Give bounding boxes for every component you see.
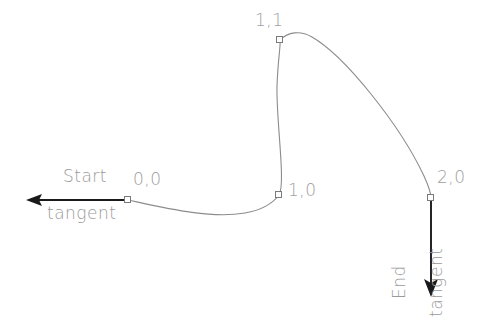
start-tangent-label-line1: Start bbox=[63, 168, 107, 185]
control-point-label-2-0: 2,0 bbox=[437, 169, 466, 186]
spline-curve-path bbox=[128, 33, 431, 215]
control-point-marker-2-0[interactable] bbox=[428, 195, 434, 201]
control-point-marker-1-0[interactable] bbox=[276, 192, 282, 198]
control-point-label-0-0: 0,0 bbox=[133, 171, 162, 188]
end-tangent-label-line2: tangent bbox=[428, 248, 445, 317]
end-tangent-label-line1: End bbox=[391, 265, 408, 299]
spline-diagram-svg bbox=[0, 0, 498, 319]
control-point-label-1-0: 1,0 bbox=[288, 182, 317, 199]
control-point-marker-0-0[interactable] bbox=[125, 197, 131, 203]
control-point-label-1-1: 1,1 bbox=[255, 12, 284, 29]
control-point-marker-1-1[interactable] bbox=[277, 37, 283, 43]
start-tangent-label-line2: tangent bbox=[47, 205, 116, 222]
diagram-canvas: Start tangent 0,0 1,1 1,0 2,0 End tangen… bbox=[0, 0, 498, 319]
